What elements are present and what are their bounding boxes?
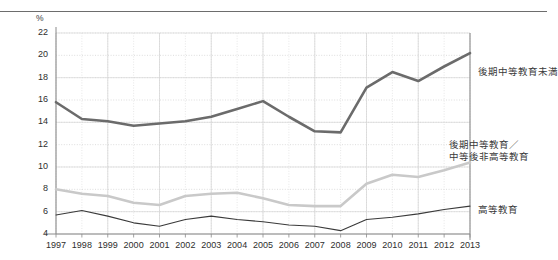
y-axis-tick-label: 14 [26, 116, 48, 126]
series-label-lower-secondary-incomplete: 後期中等教育未満 [478, 66, 558, 78]
series-label-tertiary-education: 高等教育 [478, 204, 518, 216]
y-axis-tick-label: 4 [26, 228, 48, 238]
y-axis-tick-label: 6 [26, 206, 48, 216]
y-axis-tick-label: 8 [26, 183, 48, 193]
y-axis-tick-label: 20 [26, 49, 48, 59]
y-axis-tick-label: 16 [26, 94, 48, 104]
top-horizontal-rule [0, 11, 547, 12]
x-axis-tick-label: 2013 [455, 240, 485, 250]
y-axis-tick-label: 18 [26, 72, 48, 82]
y-axis-unit-label: % [36, 13, 44, 23]
series-label-upper-secondary-postsecondary: 後期中等教育／ 中等後非高等教育 [449, 139, 529, 163]
y-axis-tick-label: 10 [26, 161, 48, 171]
y-axis-tick-label: 22 [26, 27, 48, 37]
gridlines-group [56, 33, 470, 234]
y-axis-tick-label: 12 [26, 139, 48, 149]
